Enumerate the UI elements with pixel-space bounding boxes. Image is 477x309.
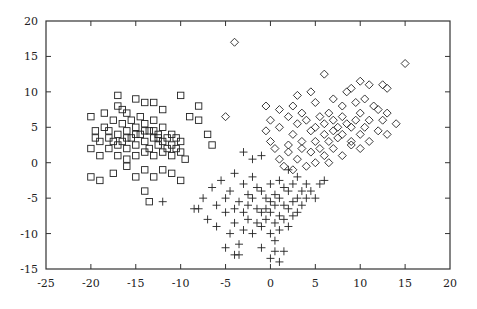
plus-marker <box>253 205 261 213</box>
x-axis: -25-20-15-10-505101520 <box>37 21 457 290</box>
plus-marker <box>240 208 248 216</box>
diamond-marker <box>356 130 364 138</box>
plus-marker <box>226 230 234 238</box>
y-tick-label: 10 <box>24 86 38 99</box>
x-tick-label: -5 <box>220 277 231 290</box>
square-marker <box>177 92 183 98</box>
diamond-marker <box>383 84 391 92</box>
diamond-marker <box>347 84 355 92</box>
x-tick-label: -25 <box>37 277 55 290</box>
x-tick-label: -15 <box>127 277 145 290</box>
plus-marker <box>213 201 221 209</box>
square-marker <box>160 167 166 173</box>
plus-marker <box>289 180 297 188</box>
plus-marker <box>222 244 230 252</box>
plus-marker <box>248 173 256 181</box>
x-tick-label: 5 <box>312 277 319 290</box>
plus-marker <box>240 180 248 188</box>
plus-marker <box>257 244 265 252</box>
plus-marker <box>257 152 265 160</box>
y-tick-label: 0 <box>31 157 38 170</box>
diamond-marker <box>329 145 337 153</box>
square-marker <box>88 113 94 119</box>
diamond-marker <box>271 145 279 153</box>
y-tick-label: 20 <box>24 15 38 28</box>
plus-marker <box>235 251 243 259</box>
diamond-marker <box>352 98 360 106</box>
diamond-marker <box>325 137 333 145</box>
plus-marker <box>266 180 274 188</box>
diamond-marker <box>275 155 283 163</box>
plus-marker <box>275 226 283 234</box>
diamond-marker <box>329 116 337 124</box>
diamond-marker <box>343 88 351 96</box>
plus-marker <box>262 215 270 223</box>
diamond-marker <box>374 127 382 135</box>
plus-marker <box>284 205 292 213</box>
square-marker <box>115 131 121 137</box>
plus-marker <box>222 194 230 202</box>
plus-marker <box>275 212 283 220</box>
plus-marker <box>266 254 274 262</box>
square-marker <box>195 103 201 109</box>
plus-marker <box>199 194 207 202</box>
plus-marker <box>208 184 216 192</box>
square-marker <box>133 152 139 158</box>
plus-marker <box>262 194 270 202</box>
square-marker <box>142 138 148 144</box>
plus-marker <box>240 148 248 156</box>
diamond-marker <box>325 159 333 167</box>
square-marker <box>168 152 174 158</box>
square-marker <box>137 113 143 119</box>
square-marker <box>160 106 166 112</box>
diamond-marker <box>338 102 346 110</box>
plus-marker <box>248 230 256 238</box>
x-tick-label: -20 <box>82 277 100 290</box>
plus-marker <box>280 215 288 223</box>
diamond-marker <box>379 116 387 124</box>
square-marker <box>151 99 157 105</box>
square-marker <box>151 152 157 158</box>
plus-marker <box>159 198 167 206</box>
plus-marker <box>231 169 239 177</box>
x-tick-label: 15 <box>398 277 412 290</box>
diamond-marker <box>280 162 288 170</box>
diamond-marker <box>266 137 274 145</box>
plus-marker <box>271 191 279 199</box>
diamond-marker <box>347 123 355 131</box>
square-marker <box>151 174 157 180</box>
square-marker <box>115 92 121 98</box>
diamond-marker <box>325 109 333 117</box>
diamond-marker <box>365 116 373 124</box>
diamond-marker <box>383 109 391 117</box>
diamond-marker <box>222 113 230 121</box>
plus-marker <box>316 180 324 188</box>
square-marker <box>88 174 94 180</box>
diamond-marker <box>298 109 306 117</box>
diamond-marker <box>320 130 328 138</box>
plus-marker <box>298 187 306 195</box>
diamond-marker <box>302 162 310 170</box>
diamond-marker <box>293 155 301 163</box>
diamond-marker <box>365 137 373 145</box>
square-marker <box>92 128 98 134</box>
diamond-marker <box>320 120 328 128</box>
square-marker <box>110 170 116 176</box>
diamond-marker <box>231 38 239 46</box>
diamond-marker <box>370 102 378 110</box>
plus-marker <box>284 187 292 195</box>
plus-marker <box>280 184 288 192</box>
plus-marker <box>280 201 288 209</box>
square-marker <box>177 177 183 183</box>
diamond-marker <box>302 116 310 124</box>
plus-marker <box>235 240 243 248</box>
diamond-marker <box>338 113 346 121</box>
plus-marker <box>320 176 328 184</box>
square-marker <box>124 128 130 134</box>
plus-marker <box>244 191 252 199</box>
x-tick-label: 0 <box>267 277 274 290</box>
diamond-marker <box>266 116 274 124</box>
plus-marker <box>266 230 274 238</box>
square-marker <box>182 156 188 162</box>
square-marker <box>142 167 148 173</box>
